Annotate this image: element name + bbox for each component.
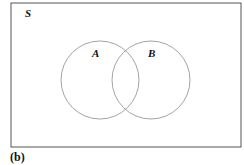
set-a-label: A — [91, 47, 99, 59]
venn-diagram: S A B — [0, 0, 244, 165]
figure-caption: (b) — [10, 150, 25, 165]
set-a-circle — [61, 41, 139, 119]
universe-rectangle — [11, 3, 241, 147]
universe-label: S — [25, 7, 31, 19]
set-b-label: B — [147, 47, 155, 59]
